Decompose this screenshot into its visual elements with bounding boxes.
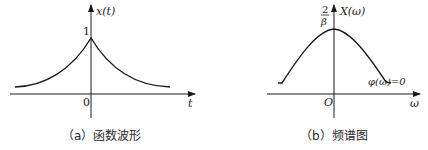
panel-a-origin-label: 0: [83, 96, 90, 109]
panel-b-x-label: ω: [410, 97, 419, 110]
panel-a-waveform: x(t) 1 0 t: [10, 5, 195, 118]
panel-a-caption: （a）函数波形: [62, 126, 141, 143]
panel-a-x-label: t: [188, 97, 193, 110]
panel-b-origin-label: O: [324, 96, 333, 109]
panel-a-curve: [15, 38, 170, 87]
panel-b-spectrum: 2 β X(ω) φ(ω)=0 O ω: [267, 4, 420, 118]
panel-b-peak-numerator: 2: [322, 4, 328, 15]
panel-a-peak-label: 1: [83, 25, 90, 38]
panel-b-y-label: X(ω): [339, 5, 365, 18]
panel-b-caption: （b）频谱图: [300, 126, 368, 143]
panel-a-y-label: x(t): [96, 5, 115, 18]
panel-b-phase-label: φ(ω)=0: [368, 76, 406, 87]
panel-b-peak-denominator: β: [320, 16, 327, 27]
